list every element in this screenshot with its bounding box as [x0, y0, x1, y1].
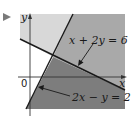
origin-label: 0: [21, 78, 27, 89]
inequality-diagram: y x 0 x + 2y = 6 2x − y = 2: [0, 0, 134, 118]
y-axis-label: y: [20, 11, 28, 24]
play-triangle-icon: [3, 13, 11, 21]
equation-line2-label: 2x − y = 2: [71, 91, 131, 104]
x-axis-label: x: [119, 77, 126, 90]
equation-line1-label: x + 2y = 6: [69, 34, 128, 47]
